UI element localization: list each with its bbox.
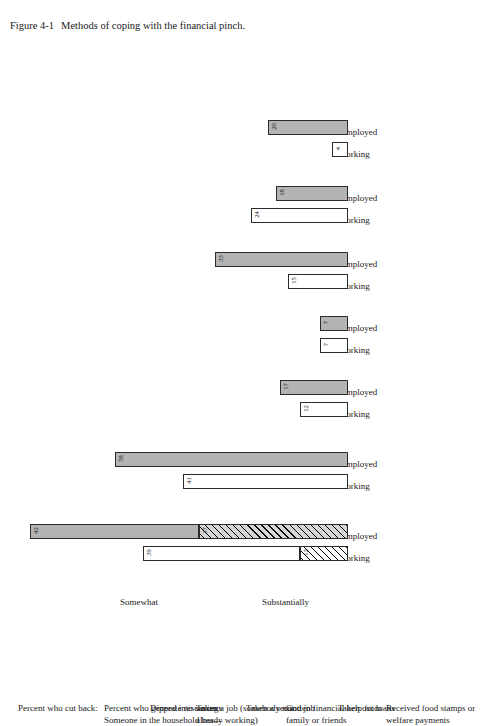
bar-working[interactable]: 12Working: [300, 402, 348, 417]
axis-note-somewhat: Somewhat: [120, 597, 158, 608]
bar-segment[interactable]: 41: [183, 474, 348, 489]
bar-value-label: 4: [334, 141, 342, 156]
bar-value-label: 24: [253, 207, 261, 222]
bar-segment[interactable]: 39: [143, 546, 300, 561]
bar-segment[interactable]: 33: [215, 252, 348, 267]
bar-value-label: 37: [201, 523, 209, 538]
bar-chart-plot-area: 1239Working3742Unemployed41Working58Unem…: [18, 97, 348, 567]
bar-unemployed[interactable]: 7Unemployed: [320, 316, 348, 331]
bar-value-label: 7: [322, 337, 330, 352]
bar-segment[interactable]: 37: [199, 524, 348, 539]
bar-segment[interactable]: 7: [320, 316, 348, 331]
bar-working[interactable]: 1239Working: [143, 546, 348, 561]
bar-value-label: 42: [32, 523, 40, 538]
bar-value-label: 33: [217, 251, 225, 266]
bar-value-label: 12: [302, 545, 310, 560]
axis-note-substantially: Substantially: [262, 597, 309, 608]
bar-working[interactable]: 15Working: [288, 274, 348, 289]
bar-value-label: 41: [185, 473, 193, 488]
bar-value-label: 15: [290, 273, 298, 288]
bar-unemployed[interactable]: 17Unemployed: [280, 380, 348, 395]
series-tick-label: Working: [319, 150, 389, 160]
bar-unemployed[interactable]: 20Unemployed: [268, 120, 348, 135]
bar-segment[interactable]: 20: [268, 120, 348, 135]
bar-segment[interactable]: 12: [300, 402, 348, 417]
bar-unemployed[interactable]: 18Unemployed: [276, 186, 348, 201]
bar-segment[interactable]: 12: [300, 546, 348, 561]
bar-value-label: 20: [270, 119, 278, 134]
bar-segment[interactable]: 42: [30, 524, 199, 539]
bar-working[interactable]: 4Working: [332, 142, 348, 157]
bar-value-label: 18: [278, 185, 286, 200]
bar-unemployed[interactable]: 33Unemployed: [215, 252, 348, 267]
bar-segment[interactable]: 24: [251, 208, 348, 223]
bar-segment[interactable]: 58: [115, 452, 348, 467]
bar-value-label: 39: [145, 545, 153, 560]
figure-caption: Figure 4-1Methods of coping with the fin…: [10, 19, 245, 32]
bar-value-label: 58: [117, 451, 125, 466]
bar-segment[interactable]: 15: [288, 274, 348, 289]
bar-segment[interactable]: 18: [276, 186, 348, 201]
bar-working[interactable]: 7Working: [320, 338, 348, 353]
bar-value-label: 17: [282, 379, 290, 394]
bar-unemployed[interactable]: 58Unemployed: [115, 452, 348, 467]
category-label: Received food stamps or welfare payments: [386, 703, 480, 726]
bar-segment[interactable]: 17: [280, 380, 348, 395]
bar-segment[interactable]: 7: [320, 338, 348, 353]
bar-value-label: 7: [322, 315, 330, 330]
bar-working[interactable]: 24Working: [251, 208, 348, 223]
bar-value-label: 12: [302, 401, 310, 416]
bar-segment[interactable]: 4: [332, 142, 348, 157]
bar-unemployed[interactable]: 3742Unemployed: [30, 524, 348, 539]
figure-caption-text: Methods of coping with the financial pin…: [61, 20, 245, 31]
bar-working[interactable]: 41Working: [183, 474, 348, 489]
figure-number: Figure 4-1: [10, 20, 54, 31]
